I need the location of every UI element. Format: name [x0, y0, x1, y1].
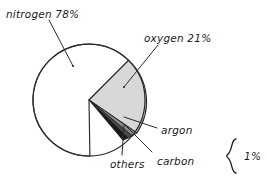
label-oxygen: oxygen 21% [144, 32, 211, 44]
leader-dot-oxygen [123, 86, 125, 88]
pie-chart-figure: nitrogen 78% oxygen 21% argon carbon oth… [0, 0, 267, 190]
label-others: others [110, 158, 145, 170]
label-trace-total: 1% [244, 150, 261, 162]
label-carbon: carbon [157, 155, 194, 167]
leader-dot-nitrogen [72, 65, 74, 67]
label-nitrogen: nitrogen 78% [6, 8, 79, 20]
pie-chart-group [33, 44, 147, 156]
label-argon: argon [161, 124, 193, 136]
